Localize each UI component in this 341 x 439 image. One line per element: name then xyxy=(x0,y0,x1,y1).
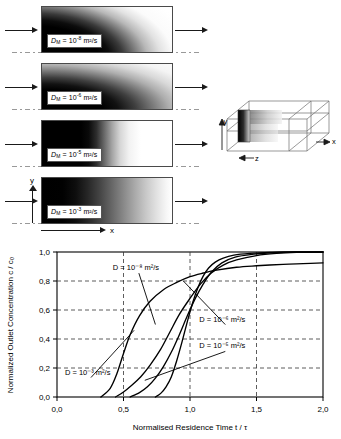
x-axis-indicator xyxy=(41,227,106,234)
inlet-arrow-2 xyxy=(5,84,38,91)
panel-eq-d3: = xyxy=(62,208,66,215)
panel-units-d5: m²/s xyxy=(83,151,97,158)
panel-sub-d8: M xyxy=(56,39,60,45)
y-axis-title: Normalized Outlet Concentration c / c₀ xyxy=(6,257,15,393)
duct-concentration-streak xyxy=(250,110,282,124)
duct-z-label: z xyxy=(255,154,259,163)
panel-exp-d5: -5 xyxy=(77,149,82,155)
panel-label-d6: DM = 10-6 m²/s xyxy=(47,91,102,105)
duct-y-label: y xyxy=(224,117,228,126)
outlet-arrow-4 xyxy=(175,198,208,205)
panel-sub-d3: M xyxy=(56,210,60,216)
outlet-arrow-3 xyxy=(175,141,208,148)
curve-annotation: D = 10⁻⁵ m²/s xyxy=(199,341,245,350)
panel-eq-d5: = xyxy=(62,151,66,158)
panel-label-d3: DM = 10-3 m²/s xyxy=(47,205,102,219)
panel-units-d3: m²/s xyxy=(83,208,97,215)
x-tick-label: 0,5 xyxy=(118,405,130,414)
outlet-arrow-1 xyxy=(175,27,208,34)
duct-3d-schematic: y z x xyxy=(216,88,341,168)
x-axis-label: x xyxy=(110,226,114,235)
inlet-arrow-1 xyxy=(5,27,38,34)
curve-annotation: D = 10⁻⁸ m²/s xyxy=(113,263,159,272)
panel-exp-d3: -3 xyxy=(77,206,82,212)
panel-sub-d6: M xyxy=(56,96,60,102)
outlet-arrow-2 xyxy=(175,84,208,91)
breakthrough-chart-section: 0,00,20,40,60,81,00,00,51,01,52,0 D = 10… xyxy=(0,238,341,439)
y-tick-label: 0,8 xyxy=(39,277,51,286)
panel-field-d5: DM = 10-5 m²/s xyxy=(41,120,173,167)
panel-mant-d8: 10 xyxy=(69,37,77,44)
panel-units-d8: m²/s xyxy=(83,37,97,44)
y-tick-label: 0,4 xyxy=(39,335,51,344)
y-tick-label: 1,0 xyxy=(39,248,51,257)
inlet-arrow-3 xyxy=(5,141,38,148)
curve-annotation: D = 10⁻⁶ m²/s xyxy=(199,315,245,324)
y-axis-indicator xyxy=(29,185,37,223)
x-tick-label: 0,0 xyxy=(51,405,63,414)
x-tick-label: 1,5 xyxy=(251,405,263,414)
y-tick-label: 0,2 xyxy=(39,364,51,373)
x-tick-label: 2,0 xyxy=(317,405,329,414)
panel-mant-d3: 10 xyxy=(69,208,77,215)
curve-annotation: D = 10⁻³ m²/s xyxy=(65,368,111,377)
panel-label-d8: DM = 10-8 m²/s xyxy=(47,34,102,48)
panel-label-d5: DM = 10-5 m²/s xyxy=(47,148,102,162)
panel-eq-d8: = xyxy=(62,37,66,44)
panel-field-d6: DM = 10-6 m²/s xyxy=(41,63,173,110)
duct-z-axis xyxy=(239,155,254,161)
duct-concentration-streak-lower xyxy=(250,124,278,142)
panel-units-d6: m²/s xyxy=(83,94,97,101)
duct-x-axis xyxy=(316,139,330,145)
y-tick-label: 0,0 xyxy=(39,393,51,402)
panel-exp-d8: -8 xyxy=(77,35,82,41)
duct-x-label: x xyxy=(332,137,336,146)
panel-mant-d6: 10 xyxy=(69,94,77,101)
panel-field-d3: DM = 10-3 m²/s xyxy=(41,177,173,224)
panel-sub-d5: M xyxy=(56,153,60,159)
duct-inlet-face xyxy=(238,110,250,142)
x-axis-title: Normalised Residence Time t / τ xyxy=(133,423,248,432)
y-axis-label: y xyxy=(30,176,34,185)
y-tick-label: 0,6 xyxy=(39,306,51,315)
panel-field-d8: DM = 10-8 m²/s xyxy=(41,6,173,53)
x-tick-label: 1,0 xyxy=(184,405,196,414)
panel-eq-d6: = xyxy=(62,94,66,101)
panel-mant-d5: 10 xyxy=(69,151,77,158)
breakthrough-chart: 0,00,20,40,60,81,00,00,51,01,52,0 D = 10… xyxy=(0,238,341,439)
concentration-panels-section: DM = 10-8 m²/s DM = 10-6 m²/s xyxy=(0,0,341,240)
panel-exp-d6: -6 xyxy=(77,92,82,98)
